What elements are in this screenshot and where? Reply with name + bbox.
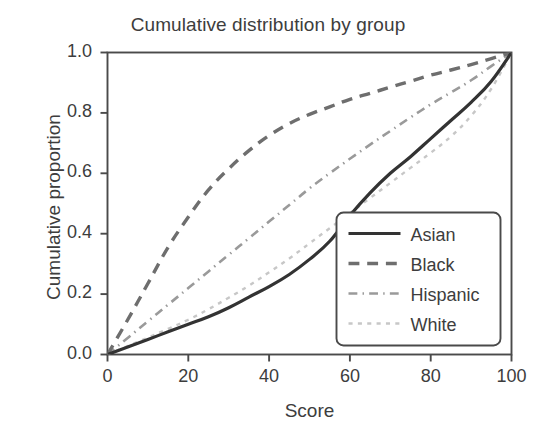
legend-label-asian: Asian [411,225,456,245]
legend-label-black: Black [411,255,456,275]
legend-box: AsianBlackHispanicWhite [337,213,501,346]
plot-canvas: AsianBlackHispanicWhite [0,0,536,438]
chart-figure: Cumulative distribution by group Cumulat… [0,0,536,438]
legend-label-white: White [411,315,457,335]
legend-label-hispanic: Hispanic [411,285,480,305]
